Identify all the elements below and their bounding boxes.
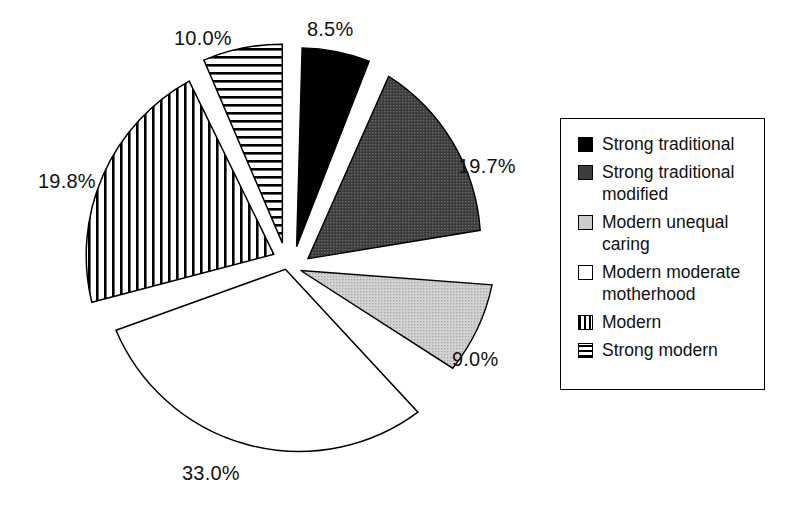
legend-item-strong-traditional-modified: Strong traditional modified: [578, 161, 758, 205]
slice-label-strong-traditional-modified: 19.7%: [458, 155, 516, 178]
pie-chart-figure: 8.5% 19.7% 9.0% 33.0% 19.8% 10.0% Strong…: [0, 0, 803, 507]
legend-label: Strong traditional: [602, 133, 734, 155]
chart-legend: Strong traditional Strong traditional mo…: [560, 118, 765, 390]
legend-item-modern-unequal-caring: Modern unequal caring: [578, 211, 758, 255]
pie-chart-svg: [0, 0, 540, 507]
legend-item-modern: Modern: [578, 311, 758, 333]
slice-label-strong-traditional: 8.5%: [307, 18, 353, 41]
slice-label-strong-modern: 10.0%: [174, 27, 232, 50]
legend-label: Strong traditional modified: [602, 161, 758, 205]
slice-label-modern-unequal-caring: 9.0%: [452, 348, 498, 371]
slice-label-modern: 19.8%: [38, 170, 96, 193]
legend-label: Modern moderate motherhood: [602, 261, 758, 305]
legend-label: Modern unequal caring: [602, 211, 758, 255]
legend-list: Strong traditional Strong traditional mo…: [578, 133, 758, 367]
legend-label: Strong modern: [602, 339, 718, 361]
slice-label-modern-moderate-motherhood: 33.0%: [182, 462, 240, 485]
dark-gray-swatch-icon: [578, 165, 593, 180]
light-gray-swatch-icon: [578, 215, 593, 230]
solid-black-swatch-icon: [578, 137, 593, 152]
legend-label: Modern: [602, 311, 661, 333]
legend-item-strong-modern: Strong modern: [578, 339, 758, 361]
legend-item-modern-moderate-motherhood: Modern moderate motherhood: [578, 261, 758, 305]
legend-item-strong-traditional: Strong traditional: [578, 133, 758, 155]
vertical-stripes-swatch-icon: [578, 315, 593, 330]
white-swatch-icon: [578, 265, 593, 280]
horizontal-stripes-swatch-icon: [578, 343, 593, 358]
